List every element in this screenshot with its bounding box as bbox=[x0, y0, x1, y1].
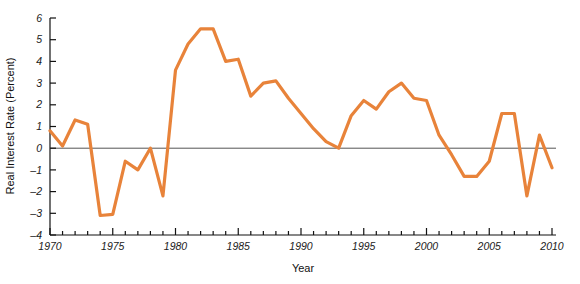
x-tick-label: 1990 bbox=[289, 240, 313, 252]
x-tick-label: 1970 bbox=[38, 240, 62, 252]
y-axis-title: Real Interest Rate (Percent) bbox=[4, 58, 16, 195]
y-tick-label: 4 bbox=[36, 55, 42, 67]
y-tick-label: 2 bbox=[35, 98, 42, 110]
x-tick-label: 2005 bbox=[477, 240, 502, 252]
x-tick-label: 2000 bbox=[414, 240, 439, 252]
x-tick-label: 1980 bbox=[164, 240, 188, 252]
x-tick-label: 1985 bbox=[227, 240, 251, 252]
y-tick-label: –2 bbox=[29, 185, 42, 197]
chart-plot-area: 6543210–1–2–3–4 197019751980198519901995… bbox=[0, 0, 580, 284]
x-axis-ticks bbox=[50, 228, 552, 235]
y-tick-label: 5 bbox=[36, 33, 42, 45]
y-tick-label: 0 bbox=[36, 142, 42, 154]
y-tick-label: –1 bbox=[29, 164, 42, 176]
x-axis-title: Year bbox=[292, 262, 315, 274]
y-tick-label: –3 bbox=[29, 207, 42, 219]
y-tick-label: 6 bbox=[36, 12, 42, 24]
y-tick-label: 3 bbox=[36, 77, 42, 89]
y-axis-ticks bbox=[50, 18, 56, 235]
data-series-line bbox=[50, 29, 552, 216]
x-axis-tick-labels: 197019751980198519901995200020052010 bbox=[38, 240, 564, 252]
y-tick-label: –4 bbox=[29, 229, 42, 241]
y-tick-label: 1 bbox=[36, 120, 42, 132]
x-tick-label: 1995 bbox=[352, 240, 376, 252]
x-tick-label: 2010 bbox=[539, 240, 564, 252]
x-tick-label: 1975 bbox=[101, 240, 125, 252]
real-interest-rate-chart: 6543210–1–2–3–4 197019751980198519901995… bbox=[0, 0, 580, 284]
y-axis-tick-labels: 6543210–1–2–3–4 bbox=[29, 12, 42, 241]
